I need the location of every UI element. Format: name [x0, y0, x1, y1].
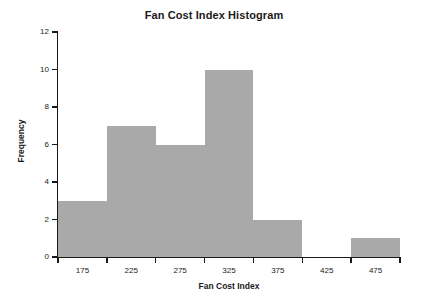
histogram-bar — [156, 145, 205, 258]
x-axis-tick — [57, 257, 58, 263]
y-axis-tick — [52, 106, 58, 107]
y-axis-tick — [52, 144, 58, 145]
y-axis-tick-label: 12 — [30, 27, 49, 36]
x-axis-tick — [155, 257, 156, 263]
y-axis-tick-label: 8 — [30, 102, 49, 111]
y-axis-tick — [52, 181, 58, 182]
x-axis-tick-label: 325 — [205, 266, 253, 275]
histogram-bar — [107, 126, 156, 257]
x-axis-tick-label: 175 — [58, 266, 106, 275]
x-axis-tick — [399, 257, 400, 263]
x-axis-tick — [106, 257, 107, 263]
x-axis-tick-label: 275 — [156, 266, 204, 275]
x-axis-tick-label: 375 — [254, 266, 302, 275]
y-axis-tick-label: 10 — [30, 65, 49, 74]
histogram-bar — [58, 201, 107, 257]
x-axis-tick — [350, 257, 351, 263]
y-axis-tick — [52, 219, 58, 220]
bar-series — [58, 32, 400, 257]
y-axis-tick-label: 0 — [30, 252, 49, 261]
chart-title: Fan Cost Index Histogram — [0, 9, 428, 21]
x-axis-tick-label: 425 — [303, 266, 351, 275]
y-axis-tick-label: 4 — [30, 177, 49, 186]
y-axis-tick-label: 6 — [30, 140, 49, 149]
x-axis-tick — [302, 257, 303, 263]
x-axis-tick-label: 475 — [352, 266, 400, 275]
x-axis-tick — [204, 257, 205, 263]
histogram-bar — [253, 220, 302, 258]
x-axis-title: Fan Cost Index — [58, 281, 400, 291]
histogram-bar — [351, 238, 400, 257]
x-axis-line — [57, 257, 401, 258]
histogram-bar — [205, 70, 254, 258]
y-axis-tick-label: 2 — [30, 215, 49, 224]
y-axis-title: Frequency — [16, 91, 26, 191]
y-axis-tick — [52, 69, 58, 70]
x-axis-tick-label: 225 — [107, 266, 155, 275]
x-axis-tick — [253, 257, 254, 263]
plot-area — [58, 32, 400, 257]
y-axis-tick — [52, 31, 58, 32]
histogram-screenshot: Fan Cost Index Histogram 024681012 17522… — [0, 0, 428, 302]
